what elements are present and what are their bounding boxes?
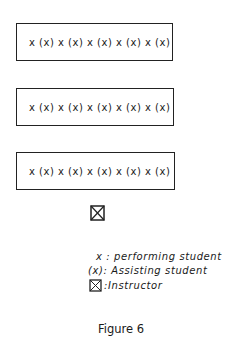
- row-2-students: x (x) x (x) x (x) x (x) x (x): [29, 102, 170, 113]
- group-row-3: x (x) x (x) x (x) x (x) x (x): [16, 152, 175, 190]
- figure-caption: Figure 6: [0, 322, 242, 336]
- row-1-students: x (x) x (x) x (x) x (x) x (x): [29, 37, 170, 48]
- group-row-1: x (x) x (x) x (x) x (x) x (x): [16, 23, 173, 61]
- legend-assisting: (x): Assisting student: [88, 265, 208, 276]
- legend-instructor: :Instructor: [104, 280, 163, 291]
- instructor-icon: [90, 205, 105, 221]
- legend-performing: x : performing student: [96, 251, 222, 262]
- group-row-2: x (x) x (x) x (x) x (x) x (x): [16, 88, 174, 126]
- legend-instructor-icon: [89, 279, 102, 292]
- row-3-students: x (x) x (x) x (x) x (x) x (x): [29, 166, 170, 177]
